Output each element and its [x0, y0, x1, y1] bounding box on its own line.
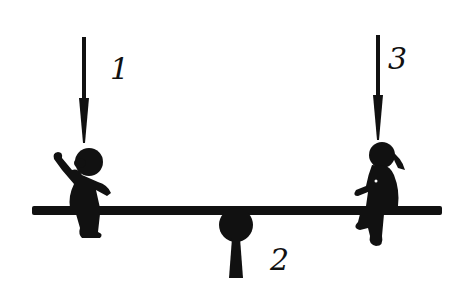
- seesaw-diagram: 1 2 3: [0, 0, 474, 295]
- down-arrow-icon: [373, 35, 383, 140]
- down-arrow-icon: [79, 37, 89, 143]
- fulcrum-icon: [219, 208, 253, 278]
- label-1: 1: [110, 54, 129, 84]
- label-2: 2: [270, 245, 289, 275]
- girl-silhouete-icon: [354, 142, 405, 246]
- label-3: 3: [388, 44, 407, 74]
- boy-silhouette-icon: [54, 148, 112, 238]
